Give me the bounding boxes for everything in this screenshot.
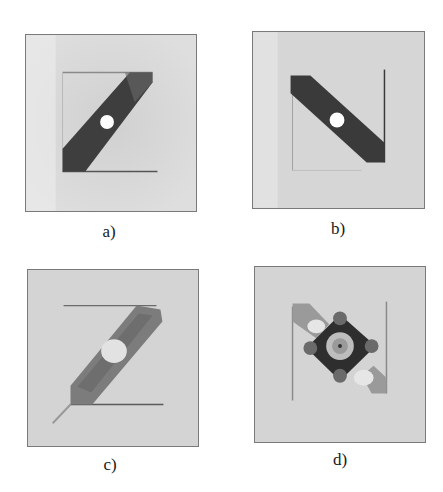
panel-label-b: b) (331, 219, 345, 239)
photo-panel-c (27, 269, 199, 447)
panel-label-c: c) (103, 455, 116, 475)
photo-panel-a (25, 34, 197, 212)
photo-panel-b (252, 31, 425, 209)
panel-label-a: a) (102, 222, 115, 242)
n-antenna-connector-image (255, 267, 425, 442)
z-antenna-soldered-image (28, 270, 198, 446)
panel-label-d: d) (333, 450, 347, 470)
z-antenna-image (26, 35, 196, 211)
n-antenna-image (253, 32, 424, 208)
photo-panel-d (254, 266, 426, 443)
